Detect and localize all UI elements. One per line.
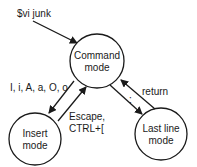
start-label: $vi junk bbox=[17, 8, 52, 19]
node-insert-label-line2: mode bbox=[22, 140, 47, 151]
command-to-insert-label: I, i, A, a, O, o bbox=[10, 82, 68, 93]
insert-to-command-label-line2: CTRL+[ bbox=[69, 123, 104, 134]
node-last-line-mode: Last line mode bbox=[135, 108, 187, 160]
node-command-mode: Command mode bbox=[70, 34, 124, 88]
vi-modes-diagram: $vi junk Command mode Insert mode Last l… bbox=[0, 0, 197, 167]
node-insert-label-line1: Insert bbox=[22, 128, 47, 139]
node-command-label-line2: mode bbox=[84, 62, 109, 73]
command-to-lastline-label: : bbox=[129, 94, 132, 105]
node-insert-mode: Insert mode bbox=[9, 113, 61, 165]
insert-to-command-label-line1: Escape, bbox=[69, 111, 105, 122]
node-lastline-label-line2: mode bbox=[148, 135, 173, 146]
command-to-lastline-arrow bbox=[110, 85, 142, 114]
node-command-label-line1: Command bbox=[74, 50, 120, 61]
lastline-to-command-label: return bbox=[142, 86, 168, 97]
start-to-command-arrow bbox=[33, 21, 77, 43]
node-lastline-label-line1: Last line bbox=[142, 123, 180, 134]
